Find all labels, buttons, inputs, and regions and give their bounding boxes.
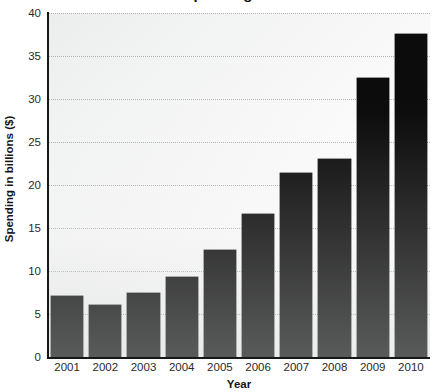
bar — [127, 293, 159, 357]
y-axis-tick-label: 15 — [28, 222, 41, 234]
y-axis-tick-labels: 0510152025303540 — [18, 0, 45, 392]
x-axis-tick-label: 2009 — [360, 361, 386, 373]
bar — [89, 305, 121, 357]
x-axis-tick-label: 2008 — [322, 361, 348, 373]
x-axis-tick-labels: 2001200220032004200520062007200820092010 — [48, 361, 430, 377]
x-axis-tick-label: 2002 — [93, 361, 119, 373]
x-axis-tick-label: 2001 — [54, 361, 80, 373]
x-axis-tick-label: 2005 — [207, 361, 233, 373]
x-axis-tick-label: 2004 — [169, 361, 195, 373]
chart-title: Spending — [0, 0, 436, 5]
y-axis-tick-label: 20 — [28, 179, 41, 191]
y-axis-tick-label: 10 — [28, 265, 41, 277]
bar — [318, 159, 350, 357]
x-axis-tick-label: 2007 — [284, 361, 310, 373]
gridline — [48, 13, 430, 14]
plot-area — [48, 13, 430, 357]
y-axis-tick-label: 40 — [28, 7, 41, 19]
y-axis-tick-label: 5 — [35, 308, 41, 320]
bar — [280, 173, 312, 357]
bar — [357, 78, 389, 357]
bar — [242, 214, 274, 357]
bar — [395, 34, 427, 357]
y-axis-title-label: Spending in billions ($) — [3, 115, 15, 242]
y-axis-title: Spending in billions ($) — [0, 0, 18, 357]
bar — [204, 250, 236, 357]
bar-chart: Spending Spending in billions ($) 051015… — [0, 0, 436, 392]
x-axis-line — [47, 357, 430, 359]
y-axis-tick-label: 25 — [28, 136, 41, 148]
x-axis-tick-label: 2006 — [245, 361, 271, 373]
bar — [166, 277, 198, 357]
bar — [51, 296, 83, 357]
x-axis-tick-label: 2010 — [398, 361, 424, 373]
y-axis-line — [47, 12, 49, 358]
x-axis-title: Year — [48, 378, 430, 390]
gridline — [48, 56, 430, 57]
y-axis-tick-label: 0 — [35, 351, 41, 363]
y-axis-tick-label: 30 — [28, 93, 41, 105]
x-axis-tick-label: 2003 — [131, 361, 157, 373]
y-axis-tick-label: 35 — [28, 50, 41, 62]
